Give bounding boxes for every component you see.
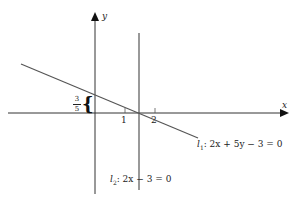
l1-equation: : 2x + 5y − 3 = 0 <box>204 139 283 149</box>
x-axis-arrow-icon <box>280 109 289 117</box>
x-axis-label: x <box>282 101 287 110</box>
tick-label-1: 1 <box>121 116 127 125</box>
fraction-numerator: 3 <box>73 96 81 103</box>
line-l1 <box>21 64 198 138</box>
fraction-denominator: 5 <box>73 106 81 113</box>
intercept-fraction: 3 5 <box>73 96 81 113</box>
y-axis-label: y <box>102 12 107 21</box>
y-axis-arrow-icon <box>91 12 99 21</box>
l2-label: l2: 2x − 3 = 0 <box>110 175 171 186</box>
tick-label-2: 2 <box>151 116 157 125</box>
l1-label: l1: 2x + 5y − 3 = 0 <box>197 140 282 151</box>
coordinate-plane <box>0 0 297 199</box>
brace-icon: { <box>82 95 94 113</box>
l2-equation: : 2x − 3 = 0 <box>117 174 172 184</box>
